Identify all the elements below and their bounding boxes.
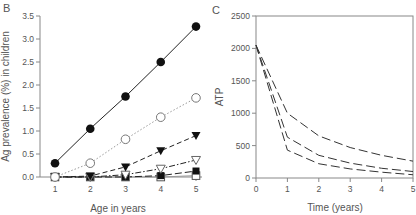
y-tick-label: 2.5 [22, 57, 34, 67]
y-tick-label: 2000 [231, 43, 250, 53]
y-tick-label: 3.0 [22, 34, 34, 44]
figure: B C 0.00.51.01.52.02.53.03.512345Age in … [0, 0, 416, 215]
panel-label-b: B [3, 2, 10, 14]
x-tick-label: 5 [194, 184, 199, 194]
y-tick-label: 0 [245, 173, 250, 183]
marker-open-circle [121, 135, 130, 144]
series-line-middle [256, 45, 413, 171]
x-tick-label: 1 [285, 184, 290, 194]
x-axis-label: Time (years) [307, 202, 363, 213]
y-tick-label: 1000 [231, 108, 250, 118]
marker-filled-square [193, 168, 200, 175]
marker-open-circle [192, 94, 201, 103]
marker-filled-triangle [156, 147, 165, 155]
y-tick-label: 3.5 [22, 11, 34, 21]
x-tick-label: 2 [88, 184, 93, 194]
x-tick-label: 2 [316, 184, 321, 194]
chart-b: 0.00.51.01.52.02.53.03.512345Age in year… [0, 11, 202, 214]
marker-filled-circle [51, 159, 60, 168]
chart-c: 05001000150020002500012345Time (years)AT… [214, 11, 416, 213]
panel-label-c: C [212, 4, 220, 16]
y-tick-label: 0.0 [22, 172, 34, 182]
x-tick-label: 1 [53, 184, 58, 194]
y-tick-label: 0.5 [22, 149, 34, 159]
marker-open-circle [51, 173, 60, 182]
x-tick-label: 3 [123, 184, 128, 194]
y-tick-label: 1500 [231, 76, 250, 86]
marker-open-triangle [156, 165, 165, 173]
x-axis-label: Age in years [90, 203, 146, 214]
y-axis-label: Ag prevalence (%) in children [0, 31, 11, 162]
y-tick-label: 1.0 [22, 126, 34, 136]
series-line-lower [256, 45, 413, 175]
marker-open-circle [86, 159, 95, 168]
marker-filled-triangle [192, 132, 201, 140]
x-tick-label: 0 [254, 184, 259, 194]
marker-filled-circle [86, 124, 95, 133]
marker-filled-circle [156, 58, 165, 67]
marker-filled-circle [121, 92, 130, 101]
y-axis-label: ATP [214, 87, 225, 106]
y-tick-label: 500 [236, 141, 250, 151]
y-tick-label: 1.5 [22, 103, 34, 113]
x-tick-label: 4 [379, 184, 384, 194]
series-line-upper [256, 45, 413, 161]
x-tick-label: 4 [158, 184, 163, 194]
x-tick-label: 3 [348, 184, 353, 194]
y-tick-label: 2.0 [22, 80, 34, 90]
marker-filled-circle [192, 22, 201, 31]
y-tick-label: 2500 [231, 11, 250, 21]
x-tick-label: 5 [411, 184, 416, 194]
marker-open-circle [156, 113, 165, 122]
